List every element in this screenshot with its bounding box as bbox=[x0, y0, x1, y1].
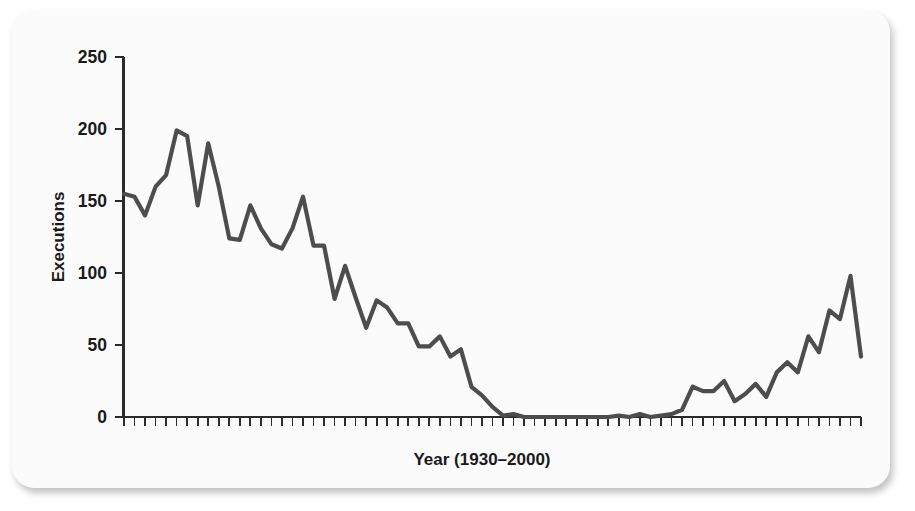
y-tick-label: 0 bbox=[97, 407, 107, 427]
executions-data-line bbox=[124, 130, 861, 417]
executions-line-chart: 050100150200250 Executions Year (1930–20… bbox=[12, 10, 890, 488]
y-tick-label: 150 bbox=[78, 191, 107, 211]
x-axis-group: Year (1930–2000) bbox=[124, 417, 862, 469]
y-tick-label: 250 bbox=[78, 47, 107, 67]
y-axis-group: 050100150200250 Executions bbox=[49, 47, 124, 427]
y-axis-tick-labels: 050100150200250 bbox=[78, 47, 107, 427]
x-axis-title: Year (1930–2000) bbox=[413, 450, 550, 469]
chart-plot-area: 050100150200250 Executions Year (1930–20… bbox=[12, 10, 890, 488]
x-axis-ticks bbox=[124, 417, 861, 426]
y-tick-label: 200 bbox=[78, 119, 107, 139]
y-tick-label: 100 bbox=[78, 263, 107, 283]
y-tick-label: 50 bbox=[88, 335, 108, 355]
screenshot-root: 050100150200250 Executions Year (1930–20… bbox=[0, 0, 915, 511]
y-axis-title: Executions bbox=[49, 192, 68, 283]
chart-card: 050100150200250 Executions Year (1930–20… bbox=[12, 10, 890, 488]
